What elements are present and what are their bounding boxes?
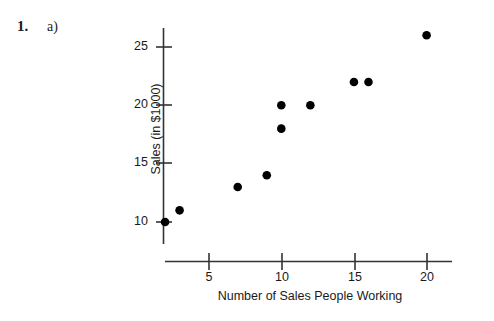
x-tick-label: 10: [267, 270, 297, 284]
x-tick-label: 20: [412, 270, 442, 284]
data-point: [306, 101, 315, 110]
x-tick-label: 15: [340, 270, 370, 284]
data-point: [350, 78, 359, 87]
scatter-plot: 25 20 15 10 5 10 15 20 Sales (in $1000) …: [0, 0, 494, 321]
data-point: [175, 206, 184, 215]
data-point: [277, 124, 286, 133]
y-tick-label: 25: [118, 39, 148, 53]
x-axis-title: Number of Sales People Working: [165, 289, 455, 303]
y-axis-title-wrapper: Sales (in $1000): [92, 62, 112, 202]
data-point: [277, 101, 286, 110]
data-point: [161, 218, 170, 227]
data-point: [262, 171, 271, 180]
y-tick-label: 20: [118, 97, 148, 111]
data-point: [422, 31, 431, 40]
x-tick-label: 5: [194, 270, 224, 284]
data-point: [233, 183, 242, 192]
data-points: [161, 31, 431, 226]
y-tick-label: 10: [118, 214, 148, 228]
data-point: [364, 78, 373, 87]
y-axis-title: Sales (in $1000): [149, 59, 163, 199]
y-tick-label: 15: [118, 155, 148, 169]
